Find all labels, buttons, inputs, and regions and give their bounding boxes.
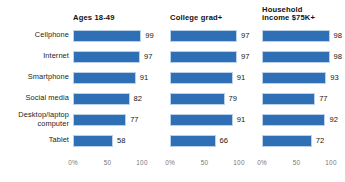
bar-value-label: 77 [319, 94, 327, 103]
bar-track: 77 [262, 88, 328, 109]
bar-value-label: 66 [220, 136, 228, 145]
axis-tick-label: 0% [257, 159, 267, 166]
bar-track: 97 [170, 25, 249, 46]
bar-row: 97 [170, 25, 262, 46]
bar [170, 93, 225, 105]
category-label-internet: Internet [0, 46, 73, 67]
bar-value-label: 82 [134, 94, 142, 103]
bar [73, 114, 126, 126]
bar-track: 98 [262, 46, 342, 67]
category-label-tablet: Tablet [0, 130, 73, 151]
bar-value-label: 58 [117, 136, 125, 145]
panel-household-income-75k-plus: Household income $75K+ 989893779272 0%50… [262, 0, 345, 174]
panel-title: Household income $75K+ [262, 6, 315, 23]
bar [170, 135, 216, 147]
bar-value-label: 97 [241, 31, 249, 40]
bar-row: 77 [262, 88, 345, 109]
bar-row: 72 [262, 130, 345, 151]
bar-row: 92 [262, 109, 345, 130]
axis-tick-label: 50 [293, 159, 301, 166]
bar-row: 82 [73, 88, 170, 109]
bar-track: 91 [73, 67, 148, 88]
bar-value-label: 72 [316, 136, 324, 145]
category-label-desktop-laptop-computer: Desktop/laptop computer [0, 109, 73, 130]
category-label-line: Cellphone [35, 31, 69, 39]
bar [73, 93, 130, 105]
bar-value-label: 97 [144, 52, 152, 61]
panel-header: Ages 18-49 [73, 0, 170, 25]
bar [262, 30, 330, 42]
panel-ages-18-49: Ages 18-49 999791827758 0%50100 [73, 0, 170, 174]
bar-track: 72 [262, 130, 324, 151]
axis-tick-label: 0% [68, 159, 78, 166]
panel-plot-area: 999791827758 [73, 25, 170, 151]
panel-title: Ages 18-49 [73, 14, 115, 23]
category-label-social-media: Social media [0, 88, 73, 109]
bar-row: 91 [170, 67, 262, 88]
bar-track: 58 [73, 130, 125, 151]
category-axis-labels: Cellphone Internet Smartphone Social med… [0, 0, 73, 151]
panel-title-line: Ages 18-49 [73, 14, 115, 23]
axis-tick-label: 100 [136, 159, 147, 166]
bar [170, 114, 233, 126]
bar-track: 91 [170, 109, 245, 130]
bar-value-label: 79 [229, 94, 237, 103]
category-label-line: Smartphone [28, 73, 69, 81]
bar [73, 30, 141, 42]
bar-track: 93 [262, 67, 339, 88]
bar-value-label: 91 [237, 73, 245, 82]
panel-x-axis: 0%50100 [170, 154, 262, 174]
bar-row: 77 [73, 109, 170, 130]
panel-plot-area: 979791799166 [170, 25, 262, 151]
category-label-line: Social media [25, 94, 69, 102]
grouped-bar-chart: Cellphone Internet Smartphone Social med… [0, 0, 345, 182]
axis-tick-label: 50 [104, 159, 112, 166]
bar-row: 66 [170, 130, 262, 151]
bar [262, 51, 330, 63]
panel-title-line: income $75K+ [262, 14, 315, 23]
category-label-smartphone: Smartphone [0, 67, 73, 88]
bar-row: 79 [170, 88, 262, 109]
bar-track: 98 [262, 25, 342, 46]
bar-row: 91 [73, 67, 170, 88]
bar-value-label: 91 [140, 73, 148, 82]
bar-row: 98 [262, 46, 345, 67]
bar-value-label: 93 [330, 73, 338, 82]
bar [262, 114, 325, 126]
panel-header: Household income $75K+ [262, 0, 345, 25]
category-label-cellphone: Cellphone [0, 25, 73, 46]
bar-value-label: 92 [329, 115, 337, 124]
bar-track: 99 [73, 25, 154, 46]
bar-track: 82 [73, 88, 142, 109]
bar [262, 93, 315, 105]
panel-college-grad-plus: College grad+ 979791799166 0%50100 [170, 0, 262, 174]
axis-tick-label: 100 [233, 159, 244, 166]
bar [262, 72, 326, 84]
bar-row: 91 [170, 109, 262, 130]
bar-track: 77 [73, 109, 139, 130]
bar-track: 66 [170, 130, 228, 151]
bar-track: 79 [170, 88, 237, 109]
bar-value-label: 99 [145, 31, 153, 40]
axis-tick-label: 100 [325, 159, 336, 166]
bar-value-label: 77 [130, 115, 138, 124]
bar-track: 97 [73, 46, 152, 67]
panel-header: College grad+ [170, 0, 262, 25]
bar-row: 97 [170, 46, 262, 67]
bar-row: 97 [73, 46, 170, 67]
bar [170, 30, 237, 42]
panel-title-line: College grad+ [170, 14, 222, 23]
panel-x-axis: 0%50100 [73, 154, 170, 174]
bar-row: 98 [262, 25, 345, 46]
bar [73, 51, 140, 63]
category-label-line: Tablet [49, 136, 69, 144]
bar [170, 72, 233, 84]
bar-row: 93 [262, 67, 345, 88]
bar-track: 91 [170, 67, 245, 88]
bar-value-label: 98 [334, 31, 342, 40]
axis-tick-label: 50 [201, 159, 209, 166]
bar-row: 99 [73, 25, 170, 46]
axis-tick-label: 0% [165, 159, 175, 166]
bar [262, 135, 312, 147]
panel-plot-area: 989893779272 [262, 25, 345, 151]
